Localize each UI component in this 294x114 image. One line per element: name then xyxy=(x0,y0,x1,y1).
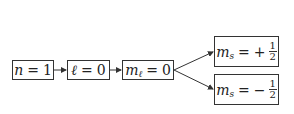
node-l: ℓ = 0 xyxy=(67,60,110,80)
node-ms-up-sub: s xyxy=(229,51,234,61)
node-ms-down-op: = xyxy=(238,82,250,98)
node-n: n = 1 xyxy=(12,60,54,80)
node-ml-value: 0 xyxy=(162,62,171,78)
node-ms-up-var: m xyxy=(216,44,229,60)
node-n-value: 1 xyxy=(43,62,52,78)
node-ms-down-sub: s xyxy=(229,89,234,99)
node-ml-op: = xyxy=(146,62,158,78)
node-ms-up-sign: + xyxy=(254,44,266,60)
node-ms-up-fraction: 1 2 xyxy=(269,41,277,62)
node-ms-up: ms = + 1 2 xyxy=(214,36,279,67)
node-l-var: ℓ xyxy=(71,62,77,79)
node-ml-sub: ℓ xyxy=(138,69,142,79)
node-ms-down-var: m xyxy=(216,82,229,98)
arrow-ml-to-ms-up xyxy=(174,52,213,70)
arrow-ml-to-ms-down xyxy=(174,70,213,89)
node-ml-var: m xyxy=(125,62,138,78)
node-ms-down-sign: − xyxy=(254,82,266,98)
node-l-value: 0 xyxy=(97,62,106,78)
fraction-denominator: 2 xyxy=(270,90,276,100)
fraction-denominator: 2 xyxy=(270,52,276,62)
node-ml: mℓ = 0 xyxy=(122,60,174,80)
node-l-op: = xyxy=(81,62,93,78)
node-ms-up-op: = xyxy=(238,44,250,60)
node-n-var: n xyxy=(14,62,23,78)
node-ms-down-fraction: 1 2 xyxy=(269,79,277,100)
node-n-op: = xyxy=(27,62,39,78)
node-ms-down: ms = − 1 2 xyxy=(214,74,279,105)
